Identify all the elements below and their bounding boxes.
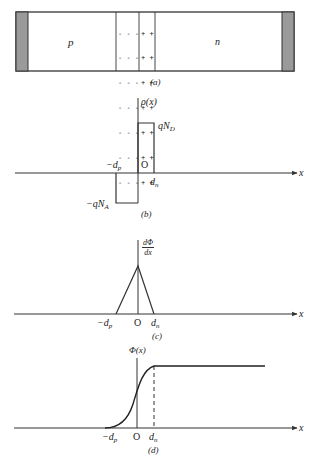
origin-label: O bbox=[134, 318, 141, 328]
neg-row: - - - bbox=[118, 30, 139, 38]
panel-c-field bbox=[14, 240, 297, 314]
neg-row: - - - bbox=[118, 79, 139, 87]
panel-a-device bbox=[16, 12, 294, 71]
right-contact bbox=[282, 12, 294, 71]
x-axis-label: x bbox=[299, 168, 303, 178]
dn-label: dn bbox=[150, 177, 159, 189]
x-axis-label: x bbox=[299, 309, 303, 319]
donor-charge-label: qND bbox=[158, 121, 175, 133]
neg-dp-label: −dp bbox=[102, 432, 117, 444]
n-region-label: n bbox=[215, 37, 220, 47]
x-axis-label: x bbox=[299, 423, 303, 433]
neg-row: - - - bbox=[118, 179, 139, 187]
pos-row: + + bbox=[141, 30, 154, 38]
phi-axis-label: Φ(x) bbox=[129, 346, 146, 355]
origin-label: O bbox=[133, 432, 140, 442]
left-contact bbox=[16, 12, 28, 71]
potential-curve bbox=[105, 366, 265, 428]
caption-c: (c) bbox=[152, 332, 162, 341]
pos-row: + + bbox=[141, 54, 154, 62]
pos-row: + + bbox=[141, 129, 154, 137]
neg-row: - - - bbox=[118, 104, 139, 112]
acceptor-charge-label: −qNA bbox=[86, 199, 109, 211]
caption-d: (d) bbox=[148, 446, 159, 455]
field-triangle bbox=[116, 266, 154, 314]
field-axis-label: dΦ dx bbox=[142, 239, 154, 257]
dn-label: dn bbox=[151, 318, 160, 330]
caption-b: (b) bbox=[141, 210, 152, 219]
origin-label: O bbox=[141, 160, 148, 170]
panel-d-potential bbox=[14, 358, 297, 428]
p-region-label: p bbox=[68, 37, 74, 48]
dn-label: dn bbox=[149, 432, 158, 444]
neg-row: - - - bbox=[118, 129, 139, 137]
neg-row: - - - bbox=[118, 54, 139, 62]
rho-axis-label: ρ(x) bbox=[141, 97, 157, 107]
caption-a: (a) bbox=[150, 78, 161, 87]
neg-dp-label: −dp bbox=[106, 160, 121, 172]
pn-junction-diagram bbox=[0, 0, 315, 464]
neg-dp-label: −dp bbox=[97, 318, 112, 330]
